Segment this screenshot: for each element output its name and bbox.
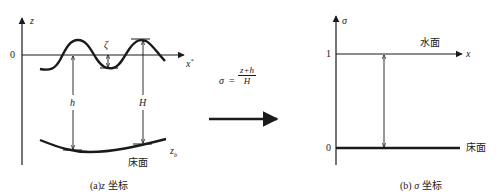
tick-1-label: 1 <box>326 49 331 59</box>
formula-numerator: z+h <box>238 65 256 76</box>
H-label: H <box>139 98 146 108</box>
caption-b-prefix: (b) <box>400 180 412 191</box>
zb-sub: b <box>174 152 177 158</box>
caption-a-suffix: 坐标 <box>105 180 128 191</box>
origin-label: 0 <box>10 50 15 60</box>
formula-fraction: z+h H <box>238 65 256 86</box>
x-star-label: x* <box>186 58 193 69</box>
tick-0-label: 0 <box>326 143 331 153</box>
bed-label-a: 床面 <box>128 158 148 168</box>
zeta-label: ζ <box>104 40 108 50</box>
formula-equals: = <box>229 76 235 86</box>
diagram-canvas <box>0 0 504 195</box>
caption-b-suffix: 坐标 <box>419 180 442 191</box>
caption-a-prefix: (a) <box>90 180 101 191</box>
x-star-sup: * <box>190 58 193 64</box>
caption-a: (a)z 坐标 <box>90 177 128 192</box>
water-surface-label: 水面 <box>420 38 440 48</box>
panel-a-z-coordinates <box>22 18 184 165</box>
bed-label-b: 床面 <box>466 143 486 153</box>
sigma-axis-label: σ <box>342 16 347 26</box>
caption-b: (b) σ 坐标 <box>400 177 442 192</box>
sigma-x-label: x <box>466 49 470 59</box>
formula-denominator: H <box>238 76 256 86</box>
caption-b-var: σ <box>412 180 419 191</box>
h-label: h <box>70 98 75 108</box>
zb-label: zb <box>170 146 177 158</box>
z-axis-label: z <box>30 16 34 26</box>
formula-sigma: σ <box>219 76 224 86</box>
bed-curve <box>40 139 166 152</box>
panel-b-sigma-coordinates <box>336 16 462 165</box>
